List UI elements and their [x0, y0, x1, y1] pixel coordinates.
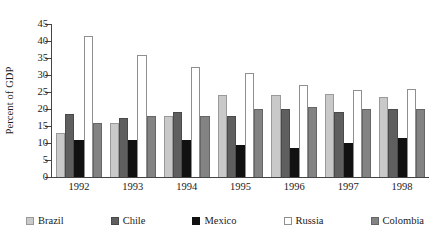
x-axis-tick-label: 1997	[321, 180, 375, 194]
y-axis-tick-label: 20	[26, 102, 48, 115]
bar-chile-1996[interactable]	[281, 109, 290, 177]
bar-chart: Percent of GDP 051015202530354045 199219…	[0, 0, 446, 241]
bar-chile-1997[interactable]	[334, 112, 343, 177]
x-axis-tick-label: 1993	[106, 180, 160, 194]
x-axis-tick-label: 1998	[375, 180, 429, 194]
bar-chile-1995[interactable]	[227, 116, 236, 177]
bar-russia-1992[interactable]	[84, 36, 93, 177]
bar-colombia-1996[interactable]	[308, 107, 317, 177]
legend-item-colombia[interactable]: Colombia	[371, 214, 424, 228]
bar-group	[321, 24, 375, 177]
y-axis-tick-label: 0	[26, 170, 48, 183]
y-axis-tick-label: 30	[26, 68, 48, 81]
bar-brazil-1996[interactable]	[271, 95, 280, 177]
bar-group	[106, 24, 160, 177]
bar-russia-1993[interactable]	[137, 55, 146, 177]
bar-mexico-1996[interactable]	[290, 148, 299, 177]
bar-chile-1993[interactable]	[119, 118, 128, 178]
bar-brazil-1997[interactable]	[325, 94, 334, 177]
legend-swatch-icon	[284, 217, 292, 225]
bar-chile-1998[interactable]	[388, 109, 397, 177]
x-axis-tick-label: 1992	[52, 180, 106, 194]
bar-brazil-1994[interactable]	[164, 116, 173, 177]
y-axis-title-text: Percent of GDP	[5, 66, 16, 134]
bar-russia-1997[interactable]	[353, 90, 362, 177]
bar-colombia-1997[interactable]	[362, 109, 371, 177]
bar-russia-1996[interactable]	[299, 85, 308, 177]
bar-group-bars	[321, 24, 375, 177]
bar-brazil-1992[interactable]	[56, 133, 65, 177]
bar-group	[214, 24, 268, 177]
legend-item-chile[interactable]: Chile	[111, 214, 146, 228]
plot-area: 051015202530354045	[51, 24, 429, 177]
legend-swatch-icon	[111, 217, 119, 225]
x-axis-tick-label: 1994	[160, 180, 214, 194]
legend-swatch-icon	[371, 217, 379, 225]
legend-label: Brazil	[38, 214, 64, 228]
x-axis-line	[51, 177, 429, 178]
bar-group	[267, 24, 321, 177]
bar-group	[160, 24, 214, 177]
legend-swatch-icon	[26, 217, 34, 225]
bar-group	[52, 24, 106, 177]
legend-label: Russia	[296, 214, 324, 228]
bar-chile-1994[interactable]	[173, 112, 182, 177]
y-axis-tick-label: 40	[26, 34, 48, 47]
bar-colombia-1992[interactable]	[93, 123, 102, 177]
bar-colombia-1993[interactable]	[147, 116, 156, 177]
bar-colombia-1995[interactable]	[254, 109, 263, 177]
bar-group-bars	[214, 24, 268, 177]
bar-russia-1995[interactable]	[245, 73, 254, 177]
x-axis-labels: 1992199319941995199619971998	[52, 180, 429, 194]
y-axis-tick-label: 15	[26, 119, 48, 132]
legend-swatch-icon	[192, 217, 200, 225]
y-axis-tick-label: 25	[26, 85, 48, 98]
y-axis-tick-label: 35	[26, 51, 48, 64]
bar-mexico-1998[interactable]	[398, 138, 407, 177]
bar-colombia-1994[interactable]	[200, 116, 209, 177]
bar-group-bars	[106, 24, 160, 177]
legend-item-mexico[interactable]: Mexico	[192, 214, 236, 228]
bar-russia-1998[interactable]	[407, 89, 416, 177]
bar-brazil-1998[interactable]	[379, 97, 388, 177]
bar-mexico-1993[interactable]	[128, 140, 137, 177]
bar-mexico-1997[interactable]	[344, 143, 353, 177]
bar-mexico-1994[interactable]	[182, 140, 191, 177]
y-axis-tick-label: 45	[26, 17, 48, 30]
bar-chile-1992[interactable]	[65, 114, 74, 177]
bar-group-bars	[267, 24, 321, 177]
bar-group-bars	[52, 24, 106, 177]
y-axis-tick-label: 5	[26, 153, 48, 166]
bar-colombia-1998[interactable]	[416, 109, 425, 177]
x-axis-tick-label: 1996	[267, 180, 321, 194]
bar-brazil-1995[interactable]	[218, 95, 227, 177]
legend-label: Colombia	[383, 214, 424, 228]
chart-legend: BrazilChileMexicoRussiaColombia	[20, 212, 430, 230]
bar-russia-1994[interactable]	[191, 67, 200, 178]
bar-group-bars	[375, 24, 429, 177]
bar-groups	[52, 24, 429, 177]
y-axis-title: Percent of GDP	[2, 20, 18, 180]
legend-item-brazil[interactable]: Brazil	[26, 214, 64, 228]
bar-group-bars	[160, 24, 214, 177]
legend-label: Mexico	[204, 214, 236, 228]
legend-label: Chile	[123, 214, 146, 228]
legend-item-russia[interactable]: Russia	[284, 214, 324, 228]
bar-group	[375, 24, 429, 177]
y-axis-tick-label: 10	[26, 136, 48, 149]
bar-mexico-1995[interactable]	[236, 145, 245, 177]
bar-mexico-1992[interactable]	[74, 140, 83, 177]
bar-brazil-1993[interactable]	[110, 123, 119, 177]
x-axis-tick-label: 1995	[214, 180, 268, 194]
